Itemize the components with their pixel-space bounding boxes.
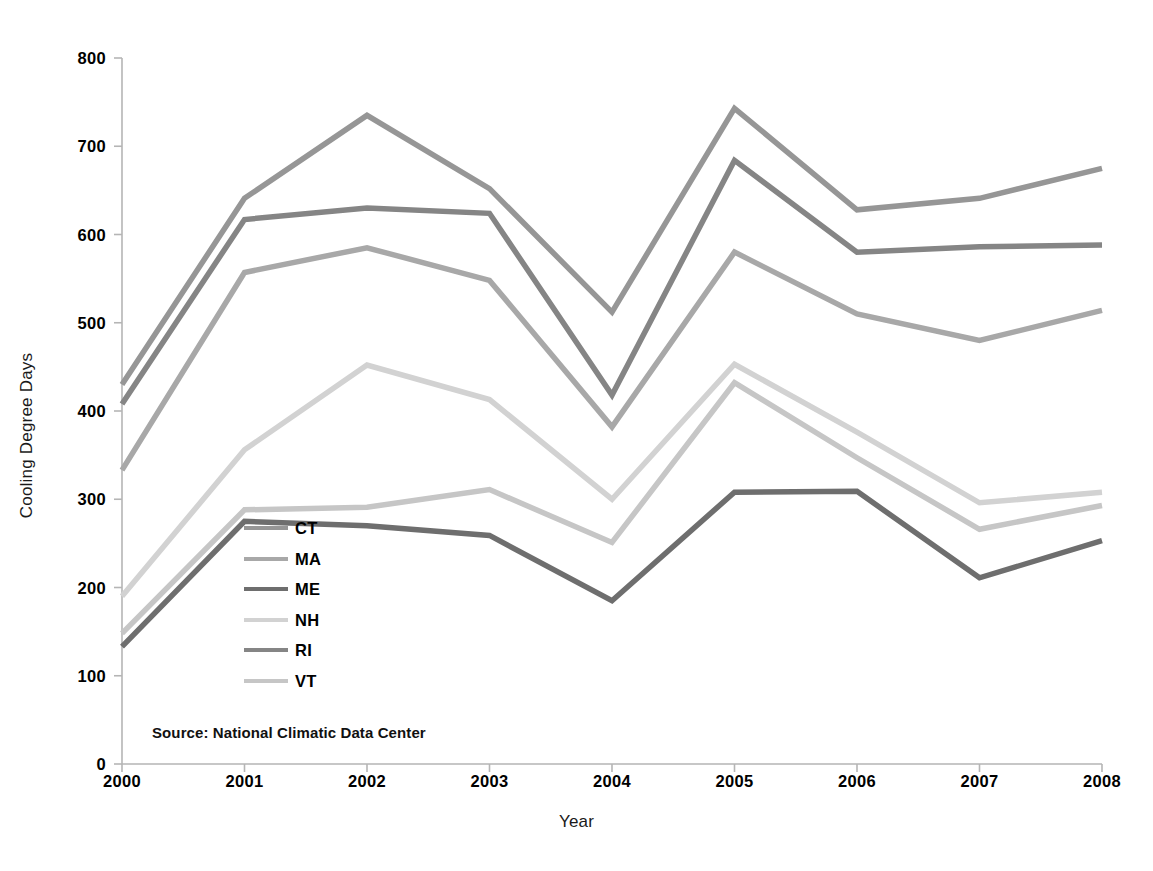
y-tick-label: 800 [46, 49, 106, 68]
y-tick-label: 200 [46, 578, 106, 597]
x-tick-label: 2000 [82, 772, 162, 791]
x-axis-tick-labels: 200020012002200320042005200620072008 [122, 772, 1102, 798]
series-line-ri [122, 160, 1102, 404]
x-tick-label: 2003 [450, 772, 530, 791]
legend-item-vt[interactable]: VT [244, 666, 394, 697]
legend-swatch-ct [244, 526, 288, 530]
y-tick-label: 100 [46, 666, 106, 685]
y-axis-tick-labels: 8007006005004003002001000 [44, 58, 106, 764]
x-tick-label: 2004 [572, 772, 652, 791]
y-tick-label: 700 [46, 137, 106, 156]
x-tick-label: 2006 [817, 772, 897, 791]
legend-swatch-vt [244, 679, 288, 683]
legend-label: MA [295, 551, 321, 568]
y-tick-label: 0 [46, 755, 106, 774]
x-tick-label: 2001 [205, 772, 285, 791]
x-tick-label: 2007 [940, 772, 1020, 791]
source-note: Source: National Climatic Data Center [152, 724, 426, 741]
legend-swatch-ma [244, 557, 288, 561]
legend-label: VT [295, 673, 317, 690]
legend-swatch-ri [244, 648, 288, 652]
legend-item-me[interactable]: ME [244, 574, 394, 605]
legend-swatch-nh [244, 618, 288, 622]
y-tick-label: 300 [46, 490, 106, 509]
legend-item-ma[interactable]: MA [244, 544, 394, 575]
legend-item-nh[interactable]: NH [244, 605, 394, 636]
legend-label: CT [295, 520, 318, 537]
legend-label: NH [295, 612, 319, 629]
series-line-ma [122, 248, 1102, 470]
x-tick-label: 2005 [695, 772, 775, 791]
cooling-degree-days-line-chart: Cooling Degree Days 80070060050040030020… [0, 0, 1153, 871]
x-axis-title: Year [0, 812, 1153, 832]
legend-label: RI [295, 642, 312, 659]
legend-label: ME [295, 581, 320, 598]
y-tick-label: 400 [46, 402, 106, 421]
legend-item-ct[interactable]: CT [244, 513, 394, 544]
x-tick-label: 2008 [1062, 772, 1142, 791]
y-tick-label: 500 [46, 313, 106, 332]
x-tick-label: 2002 [327, 772, 407, 791]
y-tick-label: 600 [46, 225, 106, 244]
legend-swatch-me [244, 587, 288, 591]
chart-legend: CTMAMENHRIVT [244, 513, 394, 696]
legend-item-ri[interactable]: RI [244, 635, 394, 666]
